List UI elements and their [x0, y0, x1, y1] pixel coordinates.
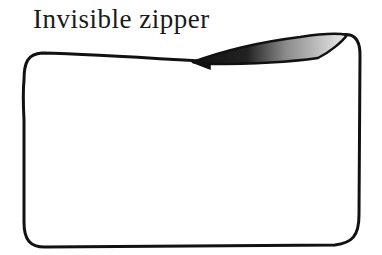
pouch-outline [23, 34, 360, 247]
zipper-pull-tab [192, 62, 210, 69]
zipper-flap [193, 34, 347, 64]
pouch-diagram [0, 0, 382, 255]
